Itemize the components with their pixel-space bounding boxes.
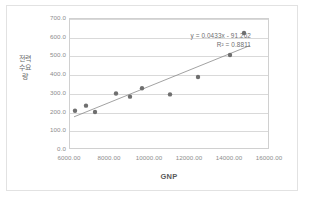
data-point (228, 53, 232, 57)
chart-plot-wrapper: 전력수요량 0.0100.0200.0300.0400.0500.0600.07… (7, 6, 299, 192)
y-axis-tick-label: 600.0 (10, 34, 66, 40)
y-axis-tick-label: 0.0 (10, 146, 66, 152)
y-axis-tick-label: 300.0 (10, 90, 66, 96)
data-point (114, 91, 118, 95)
chart-frame: 전력수요량 0.0100.0200.0300.0400.0500.0600.07… (6, 5, 298, 191)
data-point (128, 94, 132, 98)
data-point (93, 110, 97, 114)
trendline-r2-label: R² = 0.8811 (103, 41, 251, 48)
data-point (84, 103, 88, 107)
trendline-equation-label: y = 0.0433x - 91.262 (103, 32, 251, 39)
data-point (168, 92, 172, 96)
x-axis-tick-label: 16000.00 (239, 154, 299, 161)
data-point (140, 86, 144, 90)
data-point (73, 109, 77, 113)
y-axis-tick-label: 400.0 (10, 71, 66, 77)
y-axis-tick-label: 700.0 (10, 15, 66, 21)
trend-line (74, 46, 250, 117)
y-axis-tick-label: 200.0 (10, 109, 66, 115)
y-axis-tick-label: 500.0 (10, 52, 66, 58)
x-axis-title: GNP (69, 172, 269, 181)
data-point (196, 75, 200, 79)
y-axis-tick-label: 100.0 (10, 127, 66, 133)
